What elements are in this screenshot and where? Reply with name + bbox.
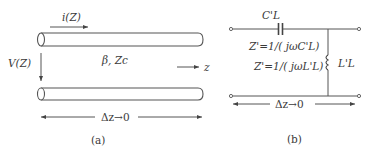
impedance-l-formula: Z'=1/( jωL'L)	[254, 61, 323, 72]
inductor-label: L'L	[338, 58, 355, 69]
length-label-a: Δz→0	[101, 112, 130, 123]
z-axis-label: z	[204, 62, 210, 73]
inductor-symbol	[326, 55, 328, 70]
caption-a: (a)	[91, 135, 105, 146]
bottom-conductor	[38, 88, 204, 100]
voltage-label: V(Z)	[8, 58, 31, 69]
params-label: β, Zc	[102, 55, 128, 66]
diagram-canvas	[0, 0, 373, 154]
top-conductor	[38, 33, 204, 46]
capacitor-label: C'L	[262, 10, 280, 21]
impedance-c-formula: Z'=1/( jωC'L)	[249, 41, 319, 52]
capacitor-symbol	[279, 23, 283, 35]
caption-b: (b)	[287, 134, 302, 145]
length-label-b: Δz→0	[275, 99, 304, 110]
current-label: i(Z)	[62, 12, 81, 23]
